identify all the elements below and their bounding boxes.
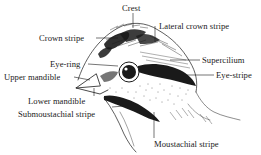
label-upper-mandible: Upper mandible — [4, 73, 60, 82]
label-supercilium: Supercilium — [202, 56, 245, 65]
label-crest: Crest — [122, 4, 140, 13]
label-eye-stripe: Eye-stripe — [216, 71, 252, 80]
bird-head-diagram: Crest Lateral crown stripe Crown stripe … — [0, 0, 261, 155]
moustachial-stripe-band — [104, 95, 160, 122]
label-lateral-crown-stripe: Lateral crown stripe — [159, 22, 229, 31]
eye — [122, 65, 136, 79]
label-submoustachial-stripe: Submoustachial stripe — [18, 110, 95, 119]
lower-mandible — [76, 88, 108, 94]
eye-ring-leader — [88, 64, 118, 66]
upper-mandible-leader — [74, 77, 90, 80]
label-eye-ring: Eye-ring — [50, 60, 80, 69]
label-lower-mandible: Lower mandible — [28, 97, 85, 106]
neck-feather-strokes — [170, 108, 212, 124]
label-crown-stripe: Crown stripe — [39, 34, 84, 43]
label-moustachial-stripe: Moustachial stripe — [154, 140, 219, 149]
